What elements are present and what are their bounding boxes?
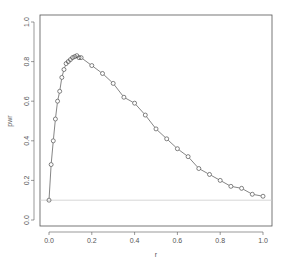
line-segment	[126, 98, 133, 102]
line-segment	[49, 167, 51, 198]
data-point	[60, 75, 64, 79]
line-segment	[53, 121, 55, 138]
data-point	[122, 95, 126, 99]
data-point	[133, 101, 137, 105]
x-tick-label: 1.0	[258, 237, 268, 244]
data-point	[53, 117, 57, 121]
data-point	[197, 167, 201, 171]
data-point	[208, 172, 212, 176]
line-segment	[190, 158, 198, 167]
x-axis-label: r	[155, 251, 158, 258]
data-point	[240, 186, 244, 190]
y-tick-label: 0.0	[23, 215, 30, 225]
line-segment	[94, 67, 101, 72]
y-axis-label: pwr	[6, 115, 14, 127]
x-tick-label: 0.8	[215, 237, 225, 244]
data-point	[111, 81, 115, 85]
x-tick-label: 0.6	[173, 237, 183, 244]
x-tick-label: 0.4	[130, 237, 140, 244]
line-segment	[254, 195, 260, 196]
line-segment	[201, 170, 208, 174]
x-axis: 0.00.20.40.60.81.0	[44, 232, 268, 244]
y-tick-label: 1.0	[23, 17, 30, 27]
line-segment	[56, 103, 58, 116]
line-segment	[158, 130, 165, 137]
series-line	[49, 59, 261, 198]
line-segment	[60, 80, 61, 90]
line-segment	[233, 187, 239, 188]
data-point	[229, 184, 233, 188]
y-tick-label: 0.2	[23, 175, 30, 185]
data-point	[49, 163, 53, 167]
data-point	[90, 64, 94, 68]
line-segment	[211, 176, 218, 180]
data-point	[58, 89, 62, 93]
data-point	[51, 139, 55, 143]
x-tick-label: 0.2	[87, 237, 97, 244]
x-tick-label: 0.0	[44, 237, 54, 244]
line-segment	[65, 66, 66, 68]
line-segment	[115, 85, 123, 95]
line-segment	[58, 93, 59, 99]
data-point	[218, 178, 222, 182]
y-tick-label: 0.8	[23, 57, 30, 67]
line-chart: 0.00.20.40.60.81.0 0.00.20.40.60.81.0 r …	[0, 0, 285, 266]
y-tick-label: 0.4	[23, 136, 30, 146]
y-axis: 0.00.20.40.60.81.0	[23, 17, 34, 225]
data-point	[250, 192, 254, 196]
line-segment	[222, 181, 229, 185]
data-point	[175, 147, 179, 151]
plot-box	[40, 15, 272, 226]
data-point	[101, 71, 105, 75]
line-segment	[104, 75, 111, 82]
line-segment	[244, 189, 251, 193]
data-point	[143, 113, 147, 117]
line-segment	[62, 72, 63, 76]
data-point	[62, 68, 66, 72]
line-segment	[147, 117, 155, 127]
data-point	[154, 127, 158, 131]
line-segment	[51, 143, 53, 162]
line-segment	[83, 59, 90, 64]
line-segment	[136, 105, 144, 114]
line-segment	[168, 140, 175, 147]
data-point	[165, 137, 169, 141]
data-point	[261, 194, 265, 198]
line-segment	[179, 150, 186, 155]
data-point	[56, 99, 60, 103]
y-tick-label: 0.6	[23, 96, 30, 106]
data-point	[186, 155, 190, 159]
data-points	[47, 54, 265, 203]
